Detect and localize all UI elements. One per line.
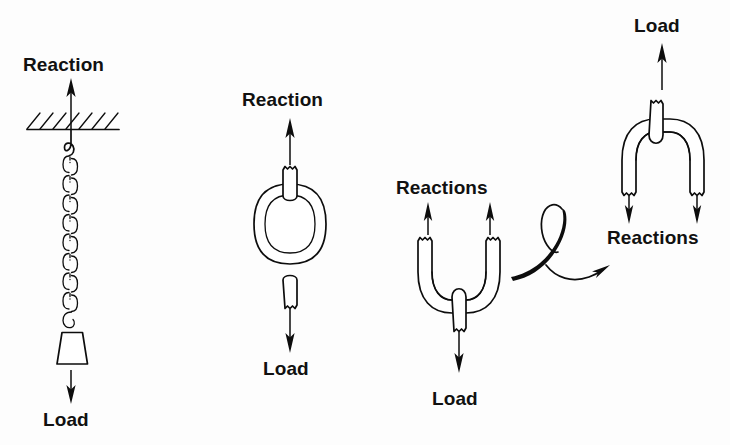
- panel-open-link-u: [418, 202, 500, 373]
- chain-links: [63, 156, 78, 328]
- label-load-single-link: Load: [263, 359, 309, 378]
- load-arrow-down: [454, 332, 463, 373]
- label-reaction-single-link: Reaction: [242, 90, 323, 109]
- ceiling-hatch: [27, 113, 119, 130]
- panel-hanging-chain: [27, 78, 119, 404]
- label-load-open-link-inverted: Load: [634, 16, 680, 35]
- panel-open-link-inverted: [622, 43, 704, 224]
- reaction-arrow-left-down: [625, 196, 633, 224]
- reaction-arrow-right-up: [486, 202, 494, 235]
- reaction-arrow-up: [285, 118, 294, 165]
- center-stub: [452, 289, 466, 332]
- bottom-stub: [283, 276, 297, 309]
- diagram-canvas: Reaction Load Reaction Load Reactions Lo…: [0, 0, 730, 445]
- label-load-hanging-chain: Load: [43, 410, 89, 429]
- load-arrow-down: [66, 370, 75, 404]
- load-arrow-up: [657, 43, 666, 90]
- label-reactions-open-link-inverted: Reactions: [607, 228, 699, 247]
- reaction-arrow-right-down: [693, 196, 701, 224]
- curved-loop-arrow: [511, 205, 610, 281]
- diagram-vector-layer: [0, 0, 730, 445]
- hook-icon: [65, 130, 74, 156]
- label-reactions-open-link-u: Reactions: [396, 178, 488, 197]
- label-load-open-link-u: Load: [432, 389, 478, 408]
- panel-single-link: [254, 118, 326, 353]
- label-reaction-hanging-chain: Reaction: [23, 55, 104, 74]
- weight-block: [57, 333, 88, 365]
- load-arrow-down: [285, 309, 294, 353]
- reaction-arrow-left-up: [424, 202, 432, 235]
- top-stub: [283, 167, 297, 201]
- center-stub: [649, 101, 663, 144]
